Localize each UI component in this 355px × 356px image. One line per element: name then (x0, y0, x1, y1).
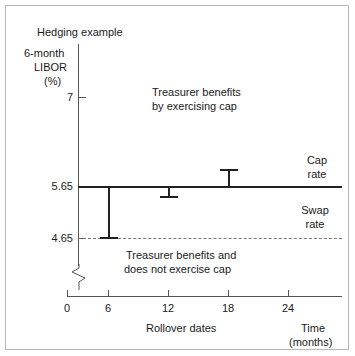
x-tick-mark-6 (108, 290, 109, 296)
cap-rate-label-line-2: rate (294, 168, 340, 180)
annotation-above-cap-line-2: by exercising cap (152, 100, 237, 112)
y-axis-label-line-1: 6-month (24, 47, 64, 59)
y-axis-line (78, 44, 79, 266)
y-tick-label-465: 4.65 (32, 232, 73, 244)
x-tick-mark-0 (67, 290, 68, 296)
y-axis-label-line-2: LIBOR (34, 61, 67, 73)
annotation-above-cap-line-1: Treasurer benefits (152, 86, 241, 98)
y-axis-label-line-3: (%) (44, 75, 61, 87)
x-tick-mark-18 (228, 290, 229, 296)
marker-stem-month-18 (228, 170, 230, 188)
y-tick-label-565: 5.65 (32, 180, 73, 192)
y-tick-mark-7 (79, 97, 86, 98)
x-tick-label-0: 0 (52, 302, 82, 314)
y-tick-label-7: 7 (46, 91, 73, 103)
x-axis-label: Time (301, 322, 325, 334)
marker-cap-month-6 (100, 237, 118, 239)
annotation-below-swap-line-2: does not exercise cap (124, 263, 231, 275)
axis-break-icon (68, 264, 90, 290)
x-tick-label-24: 24 (273, 302, 303, 314)
cap-rate-label-line-1: Cap (294, 154, 340, 166)
x-tick-label-18: 18 (213, 302, 243, 314)
chart-frame: Hedging example 6-month LIBOR (%) 7 5.65… (5, 5, 349, 350)
x-axis-line (67, 296, 342, 297)
x-axis-label-units: (months) (289, 336, 332, 348)
swap-rate-label-line-1: Swap (292, 204, 338, 216)
chart-title: Hedging example (37, 26, 123, 38)
marker-cap-month-12 (160, 196, 178, 198)
swap-rate-label-line-2: rate (292, 218, 338, 230)
x-tick-label-12: 12 (153, 302, 183, 314)
x-tick-mark-12 (168, 290, 169, 296)
x-axis-caption: Rollover dates (146, 322, 216, 334)
x-tick-label-6: 6 (93, 302, 123, 314)
cap-rate-line (78, 186, 342, 188)
marker-stem-month-6 (108, 186, 110, 238)
annotation-below-swap-line-1: Treasurer benefits and (126, 249, 236, 261)
x-tick-mark-24 (288, 290, 289, 296)
marker-cap-month-18 (220, 169, 238, 171)
